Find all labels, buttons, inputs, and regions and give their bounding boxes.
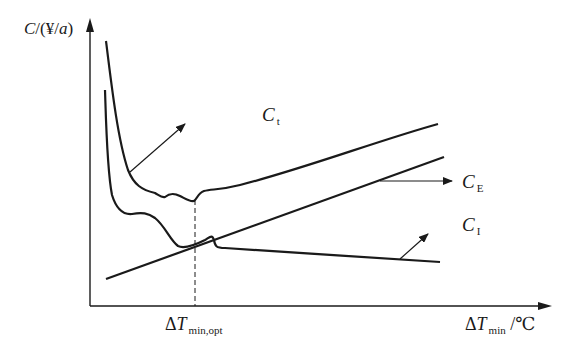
- y-axis-arrow-icon: [86, 18, 94, 32]
- label-symbol: C: [462, 171, 475, 192]
- label-symbol: C: [462, 214, 475, 235]
- x-axis-label: ΔTmin /℃: [465, 315, 535, 333]
- total-cost-leader-arrow: [130, 124, 185, 172]
- temperature-symbol: T: [177, 314, 187, 334]
- investment-cost-leader-arrow: [400, 234, 428, 259]
- optimum-x-label: ΔTmin,opt: [165, 315, 223, 333]
- label-subscript: I: [477, 225, 481, 237]
- label-subscript: E: [477, 182, 484, 194]
- delta-symbol: Δ: [165, 314, 177, 334]
- temperature-symbol: T: [477, 314, 487, 334]
- label-subscript: t: [277, 115, 280, 127]
- energy-cost-label: CE: [462, 172, 483, 191]
- y-label-unit: /(¥/: [35, 19, 59, 38]
- total-cost-label: Ct: [262, 105, 280, 124]
- x-label-unit: /℃: [506, 314, 536, 334]
- label-subscript: min: [489, 324, 506, 336]
- y-label-symbol: C: [24, 19, 35, 38]
- label-subscript: min,opt: [189, 324, 223, 336]
- x-axis-arrow-icon: [538, 302, 552, 310]
- delta-symbol: Δ: [465, 314, 477, 334]
- y-axis-label: C/(¥/a): [24, 20, 73, 37]
- cost-vs-approach-temperature-chart: [0, 0, 571, 356]
- label-symbol: C: [262, 104, 275, 125]
- investment-cost-label: CI: [462, 215, 480, 234]
- y-label-close: ): [67, 19, 73, 38]
